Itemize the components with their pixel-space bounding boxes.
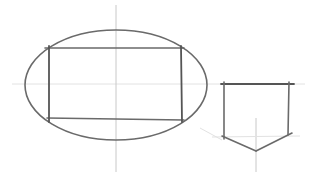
pentagon-shape — [221, 82, 294, 151]
construction-guides — [12, 5, 305, 172]
rect-right-edge — [181, 46, 182, 122]
ellipse-diagonal-guide — [200, 128, 222, 140]
rect-bottom-edge — [47, 118, 184, 120]
pentagon-right-edge — [288, 82, 289, 135]
pentagon-bottom-left-edge — [222, 136, 256, 151]
sketch-canvas — [0, 0, 316, 181]
pentagon-bottom-right-edge — [256, 133, 292, 151]
